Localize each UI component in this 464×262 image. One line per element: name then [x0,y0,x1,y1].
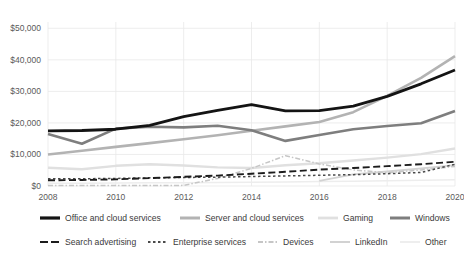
y-axis-tick-label: $40,000 [10,55,41,65]
y-axis-tick-label: $50,000 [10,23,41,33]
y-axis-tick-labels: $0$10,000$20,000$30,000$40,000$50,000 [10,23,41,191]
x-axis-tick-label: 2010 [106,192,125,202]
chart-legend: Office and cloud servicesServer and clou… [40,213,450,247]
chart-container: $0$10,000$20,000$30,000$40,000$50,000 20… [0,0,464,262]
y-axis-tick-label: $20,000 [10,118,41,128]
x-axis-tick-labels: 2008201020122014201620182020 [39,192,464,202]
x-axis-tick-label: 2008 [39,192,58,202]
x-axis-tick-label: 2014 [242,192,261,202]
legend-item-label: Search advertising [65,237,136,247]
legend-item-label: Devices [283,237,314,247]
legend-item-label: Office and cloud services [65,213,161,223]
x-axis-tick-label: 2012 [174,192,193,202]
line-chart: $0$10,000$20,000$30,000$40,000$50,000 20… [0,0,464,262]
y-axis-tick-label: $10,000 [10,149,41,159]
legend-item-label: Server and cloud services [205,213,304,223]
legend-item-label: Windows [415,213,450,223]
x-axis-tick-label: 2016 [310,192,329,202]
legend-item-label: Other [425,237,447,247]
legend-item-label: Enterprise services [173,237,246,247]
x-axis-tick-label: 2020 [446,192,464,202]
x-axis-tick-label: 2018 [378,192,397,202]
legend-item-label: LinkedIn [355,237,388,247]
y-axis-tick-label: $30,000 [10,86,41,96]
y-axis-tick-label: $0 [32,181,42,191]
legend-item-label: Gaming [343,213,373,223]
